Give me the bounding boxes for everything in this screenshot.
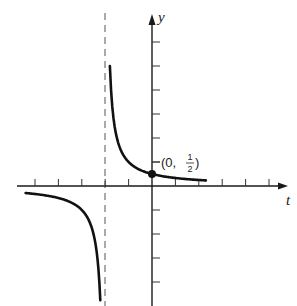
- point-label-suffix: ): [195, 155, 199, 170]
- y-axis-arrow-icon: [149, 14, 156, 25]
- point-label-numerator: 1: [187, 152, 192, 162]
- x-axis-label: t: [286, 192, 291, 208]
- point-marker: [148, 170, 156, 178]
- point-label-denominator: 2: [187, 164, 192, 174]
- curve-left-branch: [26, 193, 101, 300]
- x-axis-arrow-icon: [278, 183, 288, 190]
- point-label-prefix: (0,: [161, 155, 176, 170]
- point-annotation: (0, 1 2 ): [152, 152, 199, 174]
- function-graph: y t (0, 1 2 ): [0, 0, 297, 306]
- y-axis-label: y: [156, 9, 165, 25]
